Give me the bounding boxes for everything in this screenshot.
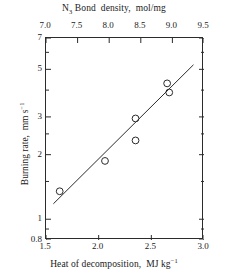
- tick-label: 2: [38, 149, 43, 159]
- tick-label: 1: [38, 213, 43, 223]
- fit-line: [53, 65, 193, 204]
- tick-label: 3: [38, 111, 43, 121]
- data-point: [102, 158, 109, 165]
- tick-label: 9.0: [166, 20, 177, 30]
- tick-label: 9.5: [197, 20, 208, 30]
- tick-label: 2.5: [145, 241, 156, 251]
- tick-label: 7: [38, 32, 43, 42]
- tick-label: 5: [38, 63, 43, 73]
- data-point: [132, 137, 139, 144]
- plot-canvas: [46, 38, 204, 240]
- data-point: [132, 115, 139, 122]
- data-point: [56, 188, 63, 195]
- top-axis-title: N3 Bond density, mol/mg: [0, 4, 228, 15]
- chart-figure: N3 Bond density, mol/mg 7.07.58.08.59.09…: [0, 0, 228, 278]
- bottom-axis-title: Heat of decomposition, MJ kg−1: [0, 258, 228, 270]
- tick-label: 7.5: [71, 20, 82, 30]
- tick-label: 7.0: [39, 20, 50, 30]
- data-point: [166, 89, 173, 96]
- plot-area: [45, 37, 203, 239]
- tick-label: 8.5: [134, 20, 145, 30]
- top-axis-title-text: N3 Bond density, mol/mg: [62, 3, 166, 13]
- tick-label: 1.5: [39, 241, 50, 251]
- y-axis-title: Burning rate, mm s−1: [19, 64, 31, 224]
- data-point: [164, 80, 171, 87]
- tick-label: 8.0: [103, 20, 114, 30]
- tick-marks: [46, 38, 204, 240]
- tick-label: 2.0: [92, 241, 103, 251]
- tick-label: 3.0: [197, 241, 208, 251]
- data-points: [56, 80, 172, 195]
